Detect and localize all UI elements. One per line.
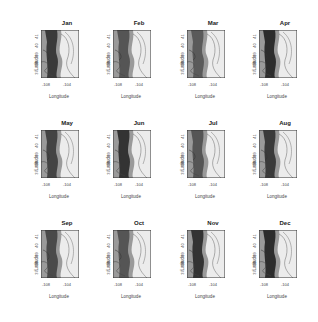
y-tick: 37	[252, 70, 257, 74]
y-tick: 39	[180, 152, 185, 156]
y-tick: 40	[180, 143, 185, 147]
y-tick: 39	[180, 252, 185, 256]
x-tick: -104	[281, 282, 289, 287]
x-axis-label: Longitude	[249, 194, 305, 199]
panel-jan: Jan Latitude 37 38 39 40 41 -108 -104 Lo…	[29, 20, 105, 120]
y-tick: 41	[34, 134, 39, 138]
y-tick: 38	[180, 161, 185, 165]
y-tick: 38	[106, 161, 111, 165]
x-axis-label: Longitude	[177, 94, 233, 99]
y-tick: 39	[106, 252, 111, 256]
y-tick: 38	[252, 61, 257, 65]
x-axis-label: Longitude	[103, 194, 159, 199]
y-tick: 39	[252, 252, 257, 256]
y-tick: 41	[180, 134, 185, 138]
y-tick: 40	[106, 143, 111, 147]
y-tick: 38	[252, 161, 257, 165]
contour-map	[41, 30, 79, 78]
panel-title: May	[39, 120, 95, 126]
x-tick: -104	[209, 82, 217, 87]
x-tick: -108	[42, 82, 50, 87]
y-tick: 39	[34, 252, 39, 256]
contour-map	[259, 230, 297, 278]
y-tick: 41	[34, 234, 39, 238]
x-axis-label: Longitude	[31, 294, 87, 299]
x-axis-label: Longitude	[177, 294, 233, 299]
panel-title: Sep	[39, 220, 95, 226]
y-tick: 37	[180, 270, 185, 274]
y-tick: 40	[34, 143, 39, 147]
y-tick: 40	[180, 43, 185, 47]
x-tick: -104	[281, 182, 289, 187]
y-tick: 40	[106, 43, 111, 47]
x-tick: -104	[63, 182, 71, 187]
x-tick: -104	[135, 282, 143, 287]
y-tick: 41	[252, 234, 257, 238]
x-tick: -104	[135, 182, 143, 187]
contour-map	[259, 30, 297, 78]
x-axis-label: Longitude	[249, 94, 305, 99]
panel-title: Nov	[185, 220, 241, 226]
y-tick: 37	[252, 170, 257, 174]
x-axis-label: Longitude	[103, 294, 159, 299]
y-tick: 38	[34, 161, 39, 165]
x-tick: -108	[114, 282, 122, 287]
y-tick: 39	[34, 52, 39, 56]
y-tick: 41	[180, 34, 185, 38]
contour-map	[259, 130, 297, 178]
y-tick: 41	[106, 234, 111, 238]
panel-title: Jul	[185, 120, 241, 126]
y-tick: 37	[252, 270, 257, 274]
x-tick: -108	[260, 82, 268, 87]
panel-may: May Latitude 37 38 39 40 41 -108 -104 Lo…	[29, 120, 105, 220]
y-tick: 38	[34, 261, 39, 265]
y-tick: 41	[34, 34, 39, 38]
y-tick: 38	[180, 261, 185, 265]
panel-title: Jan	[39, 20, 95, 26]
x-axis-label: Longitude	[177, 194, 233, 199]
panel-title: Apr	[257, 20, 313, 26]
panel-mar: Mar Latitude 37 38 39 40 41 -108 -104 Lo…	[175, 20, 251, 120]
y-tick: 40	[252, 143, 257, 147]
y-tick: 39	[252, 52, 257, 56]
y-tick: 41	[252, 34, 257, 38]
y-tick: 41	[180, 234, 185, 238]
y-tick: 41	[252, 134, 257, 138]
contour-map	[113, 130, 151, 178]
panel-title: Mar	[185, 20, 241, 26]
y-tick: 37	[34, 270, 39, 274]
y-tick: 37	[106, 170, 111, 174]
panel-jul: Jul Latitude 37 38 39 40 41 -108 -104 Lo…	[175, 120, 251, 220]
y-tick: 41	[106, 134, 111, 138]
contour-map	[41, 230, 79, 278]
panel-jun: Jun Latitude 37 38 39 40 41 -108 -104 Lo…	[101, 120, 177, 220]
y-tick: 39	[106, 152, 111, 156]
panel-apr: Apr Latitude 37 38 39 40 41 -108 -104 Lo…	[247, 20, 318, 120]
panel-nov: Nov Latitude 37 38 39 40 41 -108 -104 Lo…	[175, 220, 251, 320]
contour-map	[187, 130, 225, 178]
y-tick: 40	[180, 243, 185, 247]
y-tick: 40	[34, 243, 39, 247]
y-tick: 38	[180, 61, 185, 65]
x-tick: -108	[114, 82, 122, 87]
y-tick: 38	[34, 61, 39, 65]
y-tick: 40	[34, 43, 39, 47]
panel-title: Oct	[111, 220, 167, 226]
contour-map	[41, 130, 79, 178]
y-tick: 37	[106, 70, 111, 74]
panel-title: Aug	[257, 120, 313, 126]
y-tick: 40	[252, 243, 257, 247]
x-tick: -104	[63, 82, 71, 87]
x-axis-label: Longitude	[249, 294, 305, 299]
x-axis-label: Longitude	[103, 94, 159, 99]
y-tick: 37	[34, 70, 39, 74]
y-tick: 38	[106, 61, 111, 65]
x-axis-label: Longitude	[31, 94, 87, 99]
x-tick: -108	[260, 182, 268, 187]
y-tick: 39	[180, 52, 185, 56]
x-tick: -108	[42, 282, 50, 287]
y-tick: 39	[106, 52, 111, 56]
panel-title: Dec	[257, 220, 313, 226]
x-tick: -104	[209, 282, 217, 287]
x-tick: -108	[114, 182, 122, 187]
